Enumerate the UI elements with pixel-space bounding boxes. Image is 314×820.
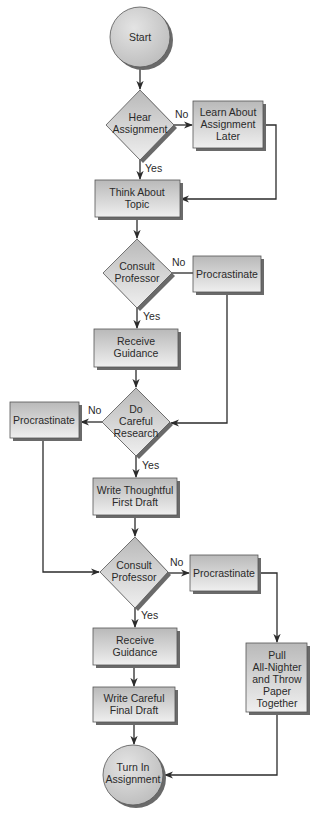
node-receive-guidance-1: Receive Guidance: [94, 329, 181, 370]
node-pull-label-2: All-Nighter: [252, 661, 302, 673]
edge-label-yes: Yes: [142, 459, 159, 471]
node-research-label-2: Careful: [119, 415, 153, 427]
node-consult1-label-1: Consult: [119, 260, 155, 272]
node-research-label-3: Research: [114, 427, 159, 439]
node-write-first-label-1: Write Thoughtful: [97, 484, 174, 496]
node-do-careful-research: Do Careful Research: [102, 388, 173, 459]
edge-label-yes: Yes: [143, 310, 160, 322]
node-consult-professor-1: Consult Professor: [103, 239, 175, 311]
node-receive2-label-2: Guidance: [113, 646, 158, 658]
edge-label-yes: Yes: [141, 609, 158, 621]
node-write-final-label-2: Final Draft: [110, 704, 159, 716]
node-write-first-draft: Write Thoughtful First Draft: [93, 478, 180, 518]
node-pull-label-1: Pull: [268, 649, 286, 661]
node-write-final-draft: Write Careful Final Draft: [93, 687, 178, 725]
edge-label-yes: Yes: [145, 162, 162, 174]
node-turn-in-assignment: Turn In Assignment: [103, 745, 166, 808]
node-hear-label-1: Hear: [129, 111, 152, 123]
node-learn-label-1: Learn About: [200, 106, 257, 118]
node-think-label-1: Think About: [109, 186, 165, 198]
node-receive1-label-2: Guidance: [114, 347, 159, 359]
node-think-about-topic: Think About Topic: [95, 180, 183, 220]
node-procrastinate2-label: Procrastinate: [13, 414, 75, 426]
node-learn-label-2: Assignment: [201, 118, 256, 130]
node-start: Start: [110, 7, 173, 70]
node-consult2-label-1: Consult: [116, 559, 152, 571]
node-pull-label-4: Paper: [263, 685, 292, 697]
node-receive2-label-1: Receive: [116, 634, 154, 646]
node-hear-assignment: Hear Assignment: [106, 90, 177, 163]
node-receive-guidance-2: Receive Guidance: [93, 628, 180, 668]
node-write-first-label-2: First Draft: [112, 496, 158, 508]
flowchart: No Yes No Yes No Yes No Yes: [0, 0, 314, 820]
node-procrastinate-3: Procrastinate: [190, 555, 261, 594]
node-procrastinate3-label: Procrastinate: [193, 567, 255, 579]
node-think-label-2: Topic: [125, 198, 150, 210]
node-receive1-label-1: Receive: [117, 335, 155, 347]
node-consult-professor-2: Consult Professor: [100, 537, 171, 611]
node-procrastinate-2: Procrastinate: [10, 402, 82, 441]
edge-label-no: No: [88, 404, 102, 416]
node-procrastinate-1: Procrastinate: [193, 256, 264, 295]
node-research-label-1: Do: [129, 403, 143, 415]
node-learn-label-3: Later: [216, 130, 240, 142]
node-turn-in-label-1: Turn In: [117, 761, 150, 773]
edge-label-no: No: [170, 556, 184, 568]
edge-procrastinate2-consult2: [43, 438, 99, 572]
edge-label-no: No: [175, 108, 189, 120]
node-consult2-label-2: Professor: [112, 571, 157, 583]
node-start-label: Start: [129, 31, 151, 43]
edge-label-no: No: [172, 256, 186, 268]
node-pull-all-nighter: Pull All-Nighter and Throw Paper Togethe…: [246, 643, 310, 715]
node-pull-label-3: and Throw: [252, 673, 302, 685]
node-turn-in-label-2: Assignment: [106, 773, 161, 785]
edge-pull-turn-in: [165, 712, 277, 775]
node-hear-label-2: Assignment: [113, 123, 168, 135]
node-write-final-label-1: Write Careful: [103, 692, 164, 704]
node-learn-later: Learn About Assignment Later: [193, 101, 266, 151]
node-procrastinate1-label: Procrastinate: [196, 268, 258, 280]
node-consult1-label-2: Professor: [115, 272, 160, 284]
node-pull-label-5: Together: [257, 697, 298, 709]
